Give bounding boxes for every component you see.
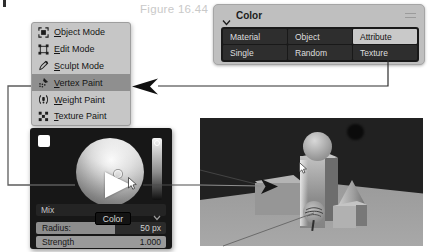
mode-menu: Object Mode Edit Mode Sculpt Mode Vertex…: [31, 22, 131, 126]
color-tooltip: Color: [95, 212, 131, 225]
menu-item-label: Edit Mode: [54, 44, 95, 54]
dark-sphere: [347, 124, 364, 140]
figure-canvas: Figure 16.44 Object Mode Edit Mode Sculp…: [0, 0, 431, 252]
scan-artifact: [3, 0, 6, 7]
blend-mode-value: Mix: [41, 205, 54, 215]
object-mode-icon: [37, 26, 50, 38]
color-panel-header[interactable]: Color: [214, 5, 424, 25]
figure-caption: Figure 16.44: [140, 3, 208, 15]
arrowhead-left: [132, 79, 158, 95]
color-mode-button-grid: Material Object Attribute Single Random …: [221, 27, 419, 62]
color-panel: Color Material Object Attribute Single R…: [213, 4, 425, 65]
menu-item-label: Texture Paint: [54, 111, 107, 121]
menu-item-label: Vertex Paint: [54, 78, 103, 88]
menu-item-object-mode[interactable]: Object Mode: [32, 24, 130, 41]
color-picker-popup: Mix Color Radius: 50 px Strength 1.000: [30, 128, 172, 249]
chevron-down-icon: [222, 12, 231, 19]
cube-side: [356, 205, 367, 226]
radius-value: 50 px: [140, 222, 161, 234]
cube-object: [333, 206, 356, 228]
menu-item-label: Object Mode: [54, 27, 105, 37]
menu-item-label: Weight Paint: [54, 95, 105, 105]
panel-menu-icon[interactable]: [405, 13, 416, 18]
texture-paint-icon: [37, 110, 50, 122]
radius-label: Radius:: [42, 222, 71, 234]
menu-item-label: Sculpt Mode: [54, 61, 104, 71]
menu-item-edit-mode[interactable]: Edit Mode: [32, 41, 130, 58]
color-panel-title: Color: [236, 10, 262, 21]
vertex-paint-icon: [37, 77, 50, 89]
strength-label: Strength: [42, 236, 74, 248]
strength-slider[interactable]: Strength 1.000: [36, 236, 166, 248]
3d-viewport[interactable]: [200, 118, 423, 246]
slab-box: [255, 183, 300, 215]
menu-item-sculpt-mode[interactable]: Sculpt Mode: [32, 58, 130, 75]
weight-paint-icon: [37, 94, 50, 106]
sculpt-mode-icon: [37, 60, 50, 72]
menu-item-weight-paint[interactable]: Weight Paint: [32, 91, 130, 108]
color-mode-texture-button[interactable]: Texture: [353, 45, 417, 60]
menu-item-texture-paint[interactable]: Texture Paint: [32, 108, 130, 125]
chevron-down-icon: [153, 207, 161, 213]
color-swatch[interactable]: [38, 135, 50, 147]
value-slider-indicator: [154, 140, 160, 146]
color-mode-material-button[interactable]: Material: [223, 29, 287, 44]
strength-value: 1.000: [140, 236, 161, 248]
edit-mode-icon: [37, 43, 50, 55]
color-mode-attribute-button[interactable]: Attribute: [353, 29, 417, 44]
mouse-cursor: [128, 176, 138, 189]
color-mode-random-button[interactable]: Random: [288, 45, 352, 60]
sphere-on-block: [303, 132, 332, 161]
value-slider[interactable]: [152, 138, 162, 200]
mouse-cursor-viewport: [299, 160, 309, 173]
color-mode-single-button[interactable]: Single: [223, 45, 287, 60]
color-mode-object-button[interactable]: Object: [288, 29, 352, 44]
menu-item-vertex-paint[interactable]: Vertex Paint: [32, 74, 130, 91]
